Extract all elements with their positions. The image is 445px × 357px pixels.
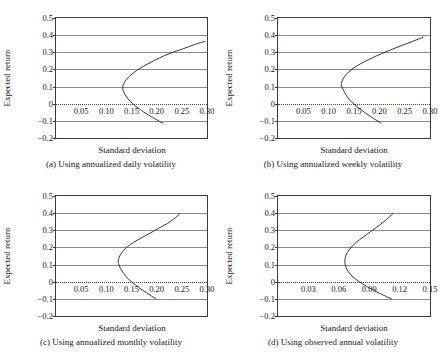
y-axis-tick-label: 0.3	[42, 226, 53, 235]
y-axis-tick-label: 0.5	[264, 14, 275, 23]
y-axis-tick-label: 0.2	[264, 243, 275, 252]
y-axis-tick	[275, 138, 278, 139]
panel-b-caption: (b) Using annualized weekly volatility	[222, 160, 444, 169]
frontier-path	[341, 37, 423, 123]
y-axis-tick-label: 0.4	[264, 209, 275, 218]
y-axis-tick-label: 0.4	[42, 31, 53, 40]
y-axis-tick-label: 0.4	[42, 209, 53, 218]
panel-c-x-axis-title: Standard deviation	[55, 324, 209, 333]
y-axis-tick-label: −0.1	[260, 295, 275, 304]
y-axis-tick-label: −0.2	[260, 312, 275, 321]
panel-d-plot-area: −0.2−0.100.10.20.30.40.50.030.060.090.12…	[277, 195, 431, 317]
panel-b-plot-area: −0.2−0.100.10.20.30.40.50.050.100.150.20…	[277, 17, 431, 139]
panel-b: Expected return −0.2−0.100.10.20.30.40.5…	[222, 0, 444, 178]
frontier-path	[118, 213, 179, 299]
y-axis-tick-label: 0.2	[264, 65, 275, 74]
frontier-curve	[278, 18, 430, 138]
y-axis-tick-label: 0.2	[42, 243, 53, 252]
panel-d-caption: (d) Using observed annual volatility	[222, 338, 444, 347]
y-axis-tick-label: −0.2	[38, 134, 53, 143]
y-axis-tick-label: 0.5	[42, 192, 53, 201]
y-axis-tick-label: 0.1	[42, 82, 53, 91]
panel-d-x-axis-title: Standard deviation	[277, 324, 431, 333]
panel-d: Expected return −0.2−0.100.10.20.30.40.5…	[222, 178, 444, 356]
panel-c: Expected return −0.2−0.100.10.20.30.40.5…	[0, 178, 222, 356]
y-axis-tick-label: 0	[271, 99, 275, 108]
y-axis-tick-label: 0.3	[42, 48, 53, 57]
panel-a-x-axis-title: Standard deviation	[55, 146, 209, 155]
y-axis-tick	[53, 316, 56, 317]
y-axis-tick-label: 0	[271, 277, 275, 286]
y-axis-tick-label: −0.2	[38, 312, 53, 321]
y-axis-tick-label: 0.5	[42, 14, 53, 23]
y-axis-tick-label: 0.1	[264, 260, 275, 269]
panel-a-y-axis-title: Expected return	[3, 49, 12, 106]
y-axis-tick-label: 0	[49, 99, 53, 108]
y-axis-tick-label: 0.5	[264, 192, 275, 201]
panel-c-y-axis-title: Expected return	[3, 227, 12, 284]
panel-a-caption: (a) Using annualized daily volatility	[0, 160, 222, 169]
panel-b-y-axis-title: Expected return	[225, 49, 234, 106]
figure-efficient-frontiers: Expected return −0.2−0.100.10.20.30.40.5…	[0, 0, 445, 357]
frontier-path	[345, 213, 394, 299]
y-axis-tick-label: −0.1	[38, 295, 53, 304]
y-axis-tick	[53, 138, 56, 139]
y-axis-tick	[275, 316, 278, 317]
panel-b-x-axis-title: Standard deviation	[277, 146, 431, 155]
y-axis-tick-label: 0.3	[264, 48, 275, 57]
y-axis-tick-label: 0	[49, 277, 53, 286]
frontier-path	[123, 41, 206, 123]
y-axis-tick-label: 0.3	[264, 226, 275, 235]
y-axis-tick-label: 0.1	[42, 260, 53, 269]
panel-a: Expected return −0.2−0.100.10.20.30.40.5…	[0, 0, 222, 178]
panel-a-plot-area: −0.2−0.100.10.20.30.40.50.050.100.150.20…	[55, 17, 208, 139]
y-axis-tick-label: −0.1	[38, 117, 53, 126]
y-axis-tick-label: 0.2	[42, 65, 53, 74]
panel-d-y-axis-title: Expected return	[225, 227, 234, 284]
frontier-curve	[56, 196, 207, 316]
y-axis-tick-label: 0.1	[264, 82, 275, 91]
panel-c-caption: (c) Using annualized monthly volatility	[0, 338, 222, 347]
y-axis-tick-label: −0.2	[260, 134, 275, 143]
panel-c-plot-area: −0.2−0.100.10.20.30.40.50.050.100.150.20…	[55, 195, 208, 317]
y-axis-tick-label: −0.1	[260, 117, 275, 126]
frontier-curve	[56, 18, 207, 138]
frontier-curve	[278, 196, 430, 316]
y-axis-tick-label: 0.4	[264, 31, 275, 40]
